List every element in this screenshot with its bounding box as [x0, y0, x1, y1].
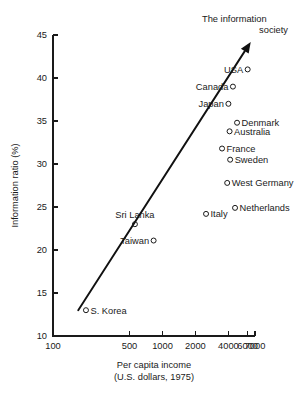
arrow-head	[241, 42, 251, 54]
y-tick-label: 45	[37, 30, 47, 40]
y-tick-label: 25	[37, 202, 47, 212]
axis-ticks	[53, 35, 255, 336]
data-point-label: Italy	[211, 209, 228, 219]
data-point-marker	[230, 84, 235, 89]
data-point-label: Netherlands	[240, 203, 290, 213]
y-tick-label: 15	[37, 288, 47, 298]
data-point-marker	[83, 308, 88, 313]
axis-lines	[53, 35, 255, 336]
y-tick-label: 20	[37, 245, 47, 255]
data-point-label: Sri Lanka	[115, 210, 155, 220]
x-tick-label: 4000	[218, 341, 239, 351]
y-tick-label: 35	[37, 116, 47, 126]
data-point-label: France	[227, 144, 256, 154]
axes	[53, 35, 255, 336]
x-axis-subtitle: (U.S. dollars, 1975)	[114, 372, 194, 382]
x-tick-label: 2000	[185, 341, 206, 351]
data-point-marker	[233, 205, 238, 210]
data-point-marker	[226, 101, 231, 106]
data-point-label: West Germany	[232, 178, 294, 188]
tick-labels: 1015202530354045100500100020004000600070…	[37, 30, 266, 351]
data-point-marker	[151, 238, 156, 243]
data-point-marker	[220, 146, 225, 151]
chart-container: USACanadaJapanDenmarkAustraliaFranceSwed…	[0, 0, 306, 401]
y-axis-title: Information ratio (%)	[10, 143, 20, 227]
data-point-marker	[204, 211, 209, 216]
x-tick-label: 100	[45, 341, 61, 351]
y-tick-label: 40	[37, 73, 47, 83]
data-point-marker	[228, 157, 233, 162]
x-tick-label: 1000	[152, 341, 173, 351]
data-point-label: Japan	[199, 99, 224, 109]
information-society-label-line1: The information	[202, 14, 267, 24]
data-point-label: Canada	[196, 82, 229, 92]
data-point-label: Sweden	[235, 155, 269, 165]
data-point-label: USA	[224, 65, 244, 75]
data-points	[83, 67, 250, 313]
data-point-marker	[245, 67, 250, 72]
x-axis-title: Per capita income	[117, 360, 191, 370]
data-point-label: Australia	[234, 127, 271, 137]
y-tick-label: 30	[37, 159, 47, 169]
data-point-label: S. Korea	[90, 306, 127, 316]
data-point-marker	[235, 120, 240, 125]
x-tick-label: 500	[122, 341, 138, 351]
data-point-marker	[225, 180, 230, 185]
data-point-label: Taiwan	[120, 236, 149, 246]
chart-annotations: The informationsociety	[202, 14, 288, 35]
x-tick-label: 7000	[245, 341, 266, 351]
data-point-marker	[227, 129, 232, 134]
y-tick-label: 10	[37, 331, 47, 341]
information-society-label-line2: society	[259, 25, 288, 35]
data-point-labels: USACanadaJapanDenmarkAustraliaFranceSwed…	[90, 65, 293, 316]
scatter-plot: USACanadaJapanDenmarkAustraliaFranceSwed…	[0, 0, 306, 401]
